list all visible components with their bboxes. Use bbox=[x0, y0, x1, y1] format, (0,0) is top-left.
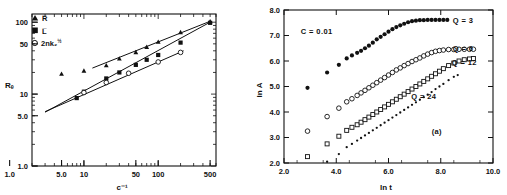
data-point bbox=[430, 18, 434, 22]
data-point bbox=[350, 125, 354, 129]
data-point bbox=[337, 106, 342, 111]
data-point bbox=[394, 97, 398, 101]
data-point bbox=[418, 82, 422, 86]
data-point bbox=[457, 74, 459, 76]
series-3 bbox=[326, 74, 459, 163]
data-point bbox=[59, 71, 64, 75]
data-point bbox=[395, 114, 397, 116]
legend-label-r: R̅ bbox=[41, 14, 48, 23]
data-point bbox=[326, 161, 328, 163]
data-point bbox=[325, 70, 329, 74]
series-fit-line bbox=[45, 22, 210, 112]
left-xlabel: c⁻¹ bbox=[116, 183, 127, 192]
data-point bbox=[363, 46, 367, 50]
data-point bbox=[350, 53, 354, 57]
data-point bbox=[415, 101, 417, 103]
data-point bbox=[360, 137, 362, 139]
data-point bbox=[382, 32, 386, 36]
legend-2nk2-exponent: ½ bbox=[57, 38, 62, 44]
y-tick-label: 100 bbox=[15, 18, 28, 27]
annotation-0: C = 0.01 bbox=[301, 27, 333, 36]
data-point bbox=[394, 25, 398, 29]
data-point bbox=[387, 119, 389, 121]
right-ylabel: ln A bbox=[255, 82, 264, 97]
data-point bbox=[338, 153, 340, 155]
y-tick-label: 50 bbox=[20, 40, 28, 49]
y-tick-label: 2.0 bbox=[270, 159, 280, 168]
data-point bbox=[402, 92, 406, 96]
data-point bbox=[453, 76, 455, 78]
data-point bbox=[355, 51, 359, 55]
left-legend: R̅ L̅ 2nk₂½ bbox=[32, 14, 62, 48]
data-point bbox=[447, 79, 449, 81]
left-ylabel-text: Rₑ bbox=[5, 81, 14, 90]
data-point bbox=[441, 67, 445, 71]
data-point bbox=[410, 87, 414, 91]
data-point bbox=[359, 49, 363, 53]
data-point bbox=[426, 77, 430, 81]
data-point bbox=[82, 68, 87, 72]
data-point bbox=[386, 30, 390, 34]
chart-panel-right: 2.04.06.08.010.02.03.04.05.06.07.08.0 Q … bbox=[253, 0, 507, 195]
data-point bbox=[117, 70, 121, 74]
data-point bbox=[379, 107, 383, 111]
data-point bbox=[441, 48, 446, 53]
y-tick-label: 7.0 bbox=[270, 31, 280, 40]
left-xlabel-text: c⁻¹ bbox=[116, 183, 127, 192]
series-label-2: Q = 12 bbox=[452, 58, 477, 67]
x-tick-label: 5.0 bbox=[56, 170, 66, 179]
data-point bbox=[104, 80, 109, 85]
data-point bbox=[383, 122, 385, 124]
legend-2nk2-base: 2nk₂ bbox=[41, 39, 57, 48]
open-circle-icon bbox=[32, 40, 37, 45]
data-point bbox=[371, 113, 375, 117]
data-point bbox=[434, 72, 438, 76]
data-point bbox=[345, 128, 349, 132]
data-point bbox=[367, 115, 371, 119]
data-point bbox=[126, 71, 131, 76]
series-fit-line bbox=[92, 21, 210, 68]
data-point bbox=[445, 18, 449, 22]
data-point bbox=[402, 22, 406, 26]
data-point bbox=[156, 53, 160, 57]
series-label-1: Q = 6 bbox=[453, 44, 474, 53]
data-point bbox=[438, 85, 440, 87]
data-point bbox=[442, 83, 444, 85]
legend-entry-2nk2: 2nk₂½ bbox=[32, 38, 62, 48]
data-point bbox=[305, 129, 310, 134]
data-point bbox=[368, 132, 370, 134]
left-ylabel: Rₑ bbox=[5, 81, 14, 90]
data-point bbox=[305, 86, 309, 90]
series-label-0: Q = 3 bbox=[453, 16, 474, 25]
y-tick-label: 6.0 bbox=[270, 57, 280, 66]
data-point bbox=[346, 146, 348, 148]
figure-container: 1.05.010501005001.05.01050100 Rₑ c⁻¹ R̅ … bbox=[0, 0, 507, 195]
data-point bbox=[437, 69, 441, 73]
data-point bbox=[178, 50, 183, 55]
filled-square-icon bbox=[32, 28, 38, 34]
data-point bbox=[355, 123, 359, 127]
data-point bbox=[337, 134, 341, 138]
x-tick-label: 500 bbox=[204, 170, 217, 179]
data-point bbox=[351, 143, 353, 145]
data-point bbox=[398, 95, 402, 99]
data-point bbox=[350, 96, 355, 101]
right-xlabel: ln t bbox=[380, 183, 392, 192]
x-tick-label: 10 bbox=[80, 170, 88, 179]
data-point bbox=[447, 64, 451, 68]
data-point bbox=[356, 139, 358, 141]
data-point bbox=[367, 44, 371, 48]
data-point bbox=[134, 63, 138, 67]
data-point bbox=[337, 63, 341, 67]
x-tick-label: 2.0 bbox=[279, 167, 289, 176]
legend-entry-l: L̅ bbox=[32, 27, 47, 36]
y-tick-label: 5.0 bbox=[18, 112, 28, 121]
series-1 bbox=[45, 21, 212, 112]
data-point bbox=[414, 19, 418, 23]
data-point bbox=[398, 23, 402, 27]
left-tick-labels: 1.05.010501005001.05.01050100 bbox=[4, 18, 216, 179]
data-point bbox=[383, 105, 387, 109]
data-point bbox=[441, 18, 445, 22]
data-point bbox=[371, 41, 375, 45]
data-point bbox=[434, 88, 436, 90]
